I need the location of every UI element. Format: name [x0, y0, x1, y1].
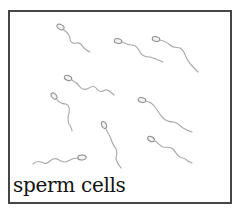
sperm-cell-8 — [147, 135, 192, 163]
sperm-cell-5 — [50, 92, 72, 131]
caption: sperm cells — [13, 174, 126, 196]
sperm-cell-4 — [64, 74, 114, 95]
sperm-cell-6 — [138, 97, 192, 132]
sperm-cell-7 — [100, 121, 121, 168]
sperm-cell-1 — [56, 23, 90, 52]
sperm-cell-9 — [33, 155, 86, 164]
sperm-cell-3 — [152, 36, 198, 72]
